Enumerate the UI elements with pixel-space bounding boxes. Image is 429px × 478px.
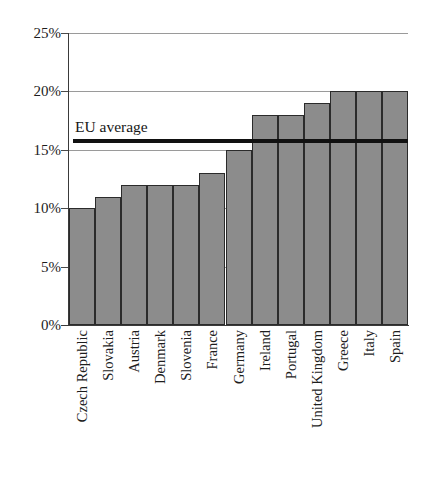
y-tick-label: 20%: [5, 84, 61, 99]
bar-chart: 25% 20% 15% 10% 5% 0% EU average: [0, 0, 429, 478]
x-label-italy: Italy: [356, 326, 382, 476]
y-tick-label: 10%: [5, 201, 61, 216]
x-tick-label: Austria: [127, 330, 142, 373]
bar-slovenia: [173, 185, 199, 325]
x-tick-label: Ireland: [257, 330, 272, 371]
x-axis-labels: Czech Republic Slovakia Austria Denmark …: [69, 326, 408, 478]
x-tick-label: Slovakia: [101, 330, 116, 381]
x-label-ireland: Ireland: [252, 326, 278, 476]
y-axis: 25% 20% 15% 10% 5% 0%: [0, 0, 61, 478]
x-tick-label: France: [205, 330, 220, 369]
x-label-czech-republic: Czech Republic: [69, 326, 95, 476]
x-tick-label: Czech Republic: [75, 330, 90, 422]
x-tick-label: Slovenia: [179, 330, 194, 381]
bar-united-kingdom: [304, 103, 330, 325]
bar-ireland: [252, 115, 278, 325]
bar-portugal: [278, 115, 304, 325]
x-tick-label: Greece: [336, 330, 351, 371]
y-tick-mark: [61, 267, 68, 268]
x-tick-label: Italy: [362, 330, 377, 357]
x-label-france: France: [199, 326, 225, 476]
y-tick-mark: [61, 33, 68, 34]
x-label-slovakia: Slovakia: [95, 326, 121, 476]
y-tick-label: 25%: [5, 26, 61, 41]
x-label-denmark: Denmark: [147, 326, 173, 476]
x-label-spain: Spain: [382, 326, 408, 476]
bar-austria: [121, 185, 147, 325]
bar-czech-republic: [69, 208, 95, 325]
x-label-slovenia: Slovenia: [173, 326, 199, 476]
eu-average-label: EU average: [75, 119, 148, 135]
bar-italy: [356, 91, 382, 325]
x-label-germany: Germany: [226, 326, 252, 476]
y-tick-mark: [61, 208, 68, 209]
y-tick-label: 15%: [5, 143, 61, 158]
x-tick-label: Portugal: [283, 330, 298, 379]
bar-denmark: [147, 185, 173, 325]
x-label-united-kingdom: United Kingdom: [304, 326, 330, 476]
eu-average-line: [73, 139, 408, 143]
y-tick-mark: [61, 150, 68, 151]
x-label-portugal: Portugal: [278, 326, 304, 476]
y-tick-label: 5%: [5, 260, 61, 275]
x-tick-label: Germany: [231, 330, 246, 384]
x-label-austria: Austria: [121, 326, 147, 476]
bar-spain: [382, 91, 408, 325]
bar-france: [199, 173, 225, 325]
plot-area: [69, 33, 408, 325]
x-tick-label: United Kingdom: [309, 330, 324, 428]
x-tick-label: Spain: [388, 330, 403, 363]
bar-slovakia: [95, 197, 121, 326]
y-tick-mark: [61, 91, 68, 92]
bar-germany: [226, 150, 252, 325]
x-label-greece: Greece: [330, 326, 356, 476]
bar-greece: [330, 91, 356, 325]
y-tick-label: 0%: [5, 318, 61, 333]
x-tick-label: Denmark: [153, 330, 168, 384]
gridline-25: [69, 33, 408, 34]
